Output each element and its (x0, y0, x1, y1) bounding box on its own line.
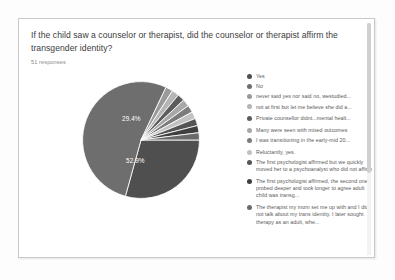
form-response-card: If the child saw a counselor or therapis… (18, 18, 375, 258)
legend-color-swatch-icon (247, 179, 252, 184)
legend-item[interactable]: never said yes nor said no, westudied... (247, 93, 375, 100)
legend-item[interactable]: I was transitioning in the early-mid 20.… (247, 137, 375, 144)
legend-item[interactable]: The therapist my mom set me up with and … (247, 204, 375, 226)
legend-item-label: not at first but let me believe she did … (256, 104, 352, 111)
pie-slice-label-primary: 52.9% (126, 157, 145, 164)
legend-item-label: The first psychologist affirmed, the sec… (256, 178, 375, 200)
legend-color-swatch-icon (247, 104, 252, 109)
pie-chart-svg (82, 81, 200, 199)
legend-item[interactable]: No (247, 83, 375, 90)
legend-item-label: The therapist my mom set me up with and … (256, 204, 375, 226)
legend-color-swatch-icon (247, 160, 252, 165)
legend-item-label: never said yes nor said no, westudied... (256, 93, 351, 100)
legend-item-label: Private counsellor didnt...mental healt.… (256, 115, 351, 122)
legend-item[interactable]: Many were seen with mixed outcomes (247, 127, 375, 134)
legend-item[interactable]: The first psychologist affirmed but we q… (247, 159, 375, 173)
pie-chart[interactable]: 52.9% 29.4% (82, 81, 200, 199)
scrollbar-thumb[interactable] (367, 23, 371, 173)
legend-color-swatch-icon (247, 150, 252, 155)
legend-item-label: Yes (256, 73, 265, 80)
legend-color-swatch-icon (247, 74, 252, 79)
legend-item[interactable]: Reluctantly, yes. (247, 149, 375, 156)
chart-legend: YesNonever said yes nor said no, westudi… (247, 73, 375, 253)
legend-color-swatch-icon (247, 116, 252, 121)
legend-item[interactable]: Yes (247, 73, 375, 80)
legend-item-label: No (256, 83, 263, 90)
screenshot-root: If the child saw a counselor or therapis… (0, 0, 395, 280)
legend-color-swatch-icon (247, 84, 252, 89)
legend-item-label: Reluctantly, yes. (256, 149, 295, 156)
legend-item-label: The first psychologist affirmed but we q… (256, 159, 375, 173)
legend-color-swatch-icon (247, 128, 252, 133)
legend-item[interactable]: Private counsellor didnt...mental healt.… (247, 115, 375, 122)
legend-color-swatch-icon (247, 138, 252, 143)
legend-color-swatch-icon (247, 205, 252, 210)
legend-color-swatch-icon (247, 94, 252, 99)
legend-item[interactable]: The first psychologist affirmed, the sec… (247, 178, 375, 200)
question-title: If the child saw a counselor or therapis… (31, 29, 357, 55)
pie-slice-label-secondary: 29.4% (122, 115, 141, 122)
response-count: 51 responses (31, 59, 66, 65)
pie-chart-area: 52.9% 29.4% (27, 71, 242, 251)
legend-item-label: Many were seen with mixed outcomes (256, 127, 348, 134)
legend-item[interactable]: not at first but let me believe she did … (247, 104, 375, 111)
legend-item-label: I was transitioning in the early-mid 20.… (256, 137, 350, 144)
